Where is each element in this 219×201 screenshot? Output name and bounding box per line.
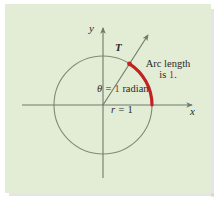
figure-container: y x T Arc length is 1. θ = 1 radian r = …: [0, 0, 219, 201]
x-axis-label: x: [190, 106, 195, 118]
point-t-label: T: [115, 42, 122, 54]
radius-label: r = 1: [111, 104, 133, 115]
arc-length-line2-prefix: is: [159, 69, 169, 80]
radius-prefix: r =: [111, 104, 127, 115]
y-axis-label: y: [89, 23, 94, 35]
arc-length-label: Arc length is 1.: [137, 58, 199, 80]
point-t-marker: [127, 61, 132, 66]
theta-suffix: radian: [120, 83, 149, 94]
theta-label: θ = 1 radian: [97, 83, 149, 94]
radius-value: 1: [127, 104, 132, 115]
diagram-canvas: [0, 0, 219, 201]
theta-prefix: θ =: [97, 83, 115, 94]
arc-length-line2-suffix: .: [174, 69, 177, 80]
arc-length-line1: Arc length: [146, 58, 191, 69]
